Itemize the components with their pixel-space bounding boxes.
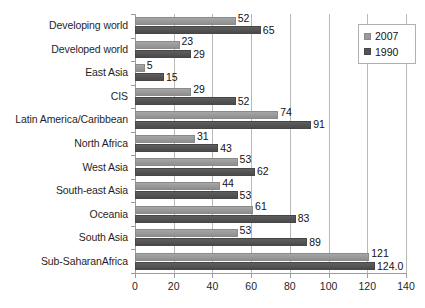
bar-row: 62 xyxy=(135,168,406,176)
bar-value-label: 83 xyxy=(298,213,310,224)
bar-value-label: 61 xyxy=(255,201,267,212)
bar[interactable] xyxy=(135,168,255,176)
bar-value-label: 23 xyxy=(182,36,194,47)
legend-item[interactable]: 2007 xyxy=(364,31,415,42)
bar-value-label: 31 xyxy=(197,131,209,142)
bar-value-label: 43 xyxy=(220,143,232,154)
bar[interactable] xyxy=(135,50,191,58)
bar-value-label: 53 xyxy=(240,154,252,165)
x-axis-tick-label: 140 xyxy=(397,280,415,292)
bar-group: 4453 xyxy=(135,179,406,203)
bar[interactable] xyxy=(135,158,238,166)
bar-row: 29 xyxy=(135,88,406,96)
legend-swatch-icon xyxy=(364,48,371,55)
bar-value-label: 89 xyxy=(309,237,321,248)
bar[interactable] xyxy=(135,17,236,25)
x-axis-tick-label: 80 xyxy=(284,280,296,292)
category-label: Sub-SaharanAfrica xyxy=(0,249,133,273)
x-axis-tick xyxy=(290,273,291,278)
bar-group: 2952 xyxy=(135,85,406,109)
bar[interactable] xyxy=(135,97,236,105)
bar-row: 53 xyxy=(135,158,406,166)
x-axis-tick-label: 100 xyxy=(320,280,338,292)
legend-item[interactable]: 1990 xyxy=(364,47,415,58)
bar-row: 121 xyxy=(135,253,406,261)
bar-row: 124.0 xyxy=(135,262,406,270)
bar-group: 7491 xyxy=(135,108,406,132)
bar-row: 74 xyxy=(135,111,406,119)
x-axis-tick-label: 20 xyxy=(168,280,180,292)
bar[interactable] xyxy=(135,191,238,199)
legend-swatch-icon xyxy=(364,33,371,40)
bar-row: 91 xyxy=(135,121,406,129)
category-label: Developed world xyxy=(0,38,133,62)
x-axis-tick xyxy=(367,273,368,278)
bar-group: 5389 xyxy=(135,226,406,250)
bar-row: 89 xyxy=(135,238,406,246)
bar[interactable] xyxy=(135,111,278,119)
bar[interactable] xyxy=(135,215,296,223)
bar[interactable] xyxy=(135,41,180,49)
x-axis-tick-label: 40 xyxy=(207,280,219,292)
bar-value-label: 124.0 xyxy=(377,261,403,272)
legend-label: 2007 xyxy=(375,31,398,42)
x-axis: 020406080100120140 xyxy=(135,273,406,303)
bar[interactable] xyxy=(135,121,311,129)
category-label: South-east Asia xyxy=(0,179,133,203)
bar[interactable] xyxy=(135,144,218,152)
x-axis-tick-label: 60 xyxy=(245,280,257,292)
category-label: Oceania xyxy=(0,202,133,226)
bar[interactable] xyxy=(135,253,369,261)
bar[interactable] xyxy=(135,73,164,81)
bar-group: 3143 xyxy=(135,132,406,156)
bar-value-label: 52 xyxy=(238,13,250,24)
x-axis-tick xyxy=(251,273,252,278)
x-axis-tick xyxy=(329,273,330,278)
bar-chart: Developing worldDeveloped worldEast Asia… xyxy=(0,0,425,308)
category-axis: Developing worldDeveloped worldEast Asia… xyxy=(0,14,133,273)
bar-value-label: 53 xyxy=(240,190,252,201)
bar-row: 15 xyxy=(135,73,406,81)
bar[interactable] xyxy=(135,26,261,34)
bar[interactable] xyxy=(135,229,238,237)
bar-row: 52 xyxy=(135,97,406,105)
bar[interactable] xyxy=(135,206,253,214)
bar[interactable] xyxy=(135,262,375,270)
legend-label: 1990 xyxy=(375,47,398,58)
bar-value-label: 15 xyxy=(166,72,178,83)
bar-group: 121124.0 xyxy=(135,249,406,273)
category-label: Developing world xyxy=(0,14,133,38)
bar-row: 53 xyxy=(135,229,406,237)
bar-group: 515 xyxy=(135,61,406,85)
bar-row: 31 xyxy=(135,135,406,143)
category-label: Latin America/Caribbean xyxy=(0,108,133,132)
bar-value-label: 74 xyxy=(280,107,292,118)
bar-value-label: 91 xyxy=(313,119,325,130)
bar-value-label: 62 xyxy=(257,166,269,177)
bar-row: 44 xyxy=(135,182,406,190)
bar[interactable] xyxy=(135,238,307,246)
bar-group: 6183 xyxy=(135,202,406,226)
bar[interactable] xyxy=(135,88,191,96)
bar[interactable] xyxy=(135,135,195,143)
bar-row: 53 xyxy=(135,191,406,199)
bar-value-label: 65 xyxy=(263,25,275,36)
bar-row: 83 xyxy=(135,215,406,223)
chart-legend: 20071990 xyxy=(358,24,416,64)
bar-value-label: 53 xyxy=(240,225,252,236)
x-axis-line xyxy=(135,273,406,274)
category-label: North Africa xyxy=(0,132,133,156)
x-axis-tick xyxy=(135,273,136,278)
x-axis-tick xyxy=(406,273,407,278)
category-label: CIS xyxy=(0,85,133,109)
bar-value-label: 44 xyxy=(222,178,234,189)
bar-value-label: 5 xyxy=(147,60,153,71)
bar-row: 43 xyxy=(135,144,406,152)
x-axis-tick-label: 0 xyxy=(132,280,138,292)
x-axis-tick xyxy=(174,273,175,278)
category-label: East Asia xyxy=(0,61,133,85)
category-label: South Asia xyxy=(0,226,133,250)
bar[interactable] xyxy=(135,182,220,190)
bar-value-label: 52 xyxy=(238,96,250,107)
bar[interactable] xyxy=(135,64,145,72)
